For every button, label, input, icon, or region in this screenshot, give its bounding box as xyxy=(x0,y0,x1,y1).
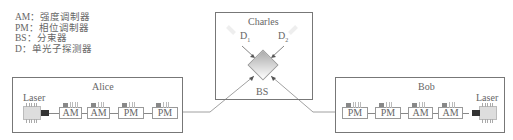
alice-title: Alice xyxy=(92,81,114,92)
beam-splitter-icon xyxy=(247,49,278,80)
bob-module-am-1: AM xyxy=(408,107,433,119)
bs-label: BS xyxy=(256,86,268,97)
bob-title: Bob xyxy=(418,81,435,92)
legend-am: AM：强度调制器 xyxy=(15,12,92,23)
alice-module-am-1: AM xyxy=(59,107,82,119)
alice-module-am-2: AM xyxy=(87,107,110,119)
alice-laser-icon xyxy=(23,106,41,120)
legend-bs: BS：分束器 xyxy=(15,33,92,44)
charles-title: Charles xyxy=(248,16,279,27)
charles-box: Charles D1 D2 BS xyxy=(215,12,313,100)
bob-module-pm-2: PM xyxy=(375,107,401,119)
bob-module-pm-1: PM xyxy=(342,107,368,119)
bob-laser-label: Laser xyxy=(476,92,498,103)
alice-module-pm-1: PM xyxy=(118,107,144,119)
bob-laser-icon xyxy=(479,106,497,120)
alice-box: Alice Laser AM AM PM PM xyxy=(12,77,183,133)
alice-laser-label: Laser xyxy=(23,92,45,103)
bob-module-am-2: AM xyxy=(438,107,463,119)
bob-box: Bob Laser PM PM AM AM xyxy=(335,77,505,133)
detector-d1-label: D1 xyxy=(240,30,250,43)
alice-module-pm-2: PM xyxy=(152,107,178,119)
detector-d2-label: D2 xyxy=(278,30,288,43)
legend-pm: PM：相位调制器 xyxy=(15,23,92,34)
legend-d: D：单光子探测器 xyxy=(15,44,92,55)
legend: AM：强度调制器 PM：相位调制器 BS：分束器 D：单光子探测器 xyxy=(15,12,92,54)
